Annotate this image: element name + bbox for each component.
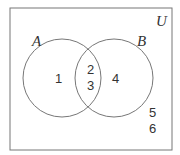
set-b-label: B [137, 33, 146, 49]
venn-diagram: U A B 1 2 3 4 5 6 [0, 0, 180, 155]
region-b-only-value: 4 [112, 71, 119, 86]
universe-label: U [156, 13, 168, 29]
region-outside-value-2: 6 [149, 121, 156, 136]
region-intersection-value-2: 3 [87, 78, 94, 93]
region-outside-value-1: 5 [149, 105, 156, 120]
region-a-only-value: 1 [55, 71, 62, 86]
region-intersection-value-1: 2 [87, 62, 94, 77]
set-a-label: A [31, 33, 42, 49]
